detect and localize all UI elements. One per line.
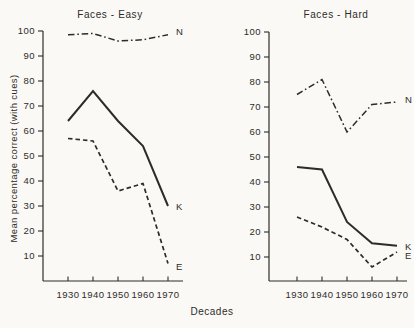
y-tick-label: 10 xyxy=(249,251,261,262)
y-tick-label: 20 xyxy=(249,226,261,237)
x-tick-label: 1930 xyxy=(285,289,308,300)
y-tick-label: 80 xyxy=(249,76,261,87)
y-tick-label: 50 xyxy=(249,151,261,162)
x-tick-label: 1950 xyxy=(106,289,129,300)
panel-faces-hard: 1020304050607080901001930194019501960197… xyxy=(244,26,412,300)
x-tick-label: 1960 xyxy=(360,289,383,300)
x-tick-label: 1940 xyxy=(81,289,104,300)
y-axis-label: Mean percentage correct (with cues) xyxy=(8,29,19,289)
y-tick-label: 60 xyxy=(23,125,35,136)
series-label-N: N xyxy=(405,94,412,105)
y-tick-label: 30 xyxy=(23,200,35,211)
line-chart-canvas: 1020304050607080901001930194019501960197… xyxy=(0,0,414,328)
y-tick-label: 90 xyxy=(249,51,261,62)
series-line-K xyxy=(297,167,397,246)
series-line-N xyxy=(297,80,397,133)
x-axis-label: Decades xyxy=(191,306,234,317)
panel-faces-easy: 1020304050607080901001930194019501960197… xyxy=(18,25,183,300)
x-tick-label: 1970 xyxy=(156,289,179,300)
series-line-N xyxy=(68,34,168,42)
y-tick-label: 70 xyxy=(249,101,261,112)
series-line-K xyxy=(68,91,168,206)
series-label-E: E xyxy=(176,261,182,272)
panel-title-faces-easy: Faces - Easy xyxy=(77,9,143,20)
y-tick-label: 100 xyxy=(244,26,261,37)
y-tick-label: 50 xyxy=(23,150,35,161)
figure: 1020304050607080901001930194019501960197… xyxy=(0,0,414,328)
x-tick-label: 1930 xyxy=(56,289,79,300)
y-tick-label: 40 xyxy=(249,176,261,187)
series-line-E xyxy=(297,217,397,267)
y-tick-label: 100 xyxy=(18,25,35,36)
y-tick-label: 80 xyxy=(23,75,35,86)
x-tick-label: 1960 xyxy=(131,289,154,300)
series-label-N: N xyxy=(176,26,183,37)
x-tick-label: 1970 xyxy=(385,289,408,300)
x-tick-label: 1940 xyxy=(310,289,333,300)
y-tick-label: 10 xyxy=(23,250,35,261)
x-tick-label: 1950 xyxy=(335,289,358,300)
y-tick-label: 90 xyxy=(23,50,35,61)
y-tick-label: 70 xyxy=(23,100,35,111)
y-tick-label: 30 xyxy=(249,201,261,212)
series-line-E xyxy=(68,139,168,264)
panel-title-faces-hard: Faces - Hard xyxy=(304,9,369,20)
series-label-K: K xyxy=(176,201,183,212)
y-tick-label: 20 xyxy=(23,225,35,236)
series-label-E: E xyxy=(405,250,411,261)
y-tick-label: 60 xyxy=(249,126,261,137)
y-tick-label: 40 xyxy=(23,175,35,186)
